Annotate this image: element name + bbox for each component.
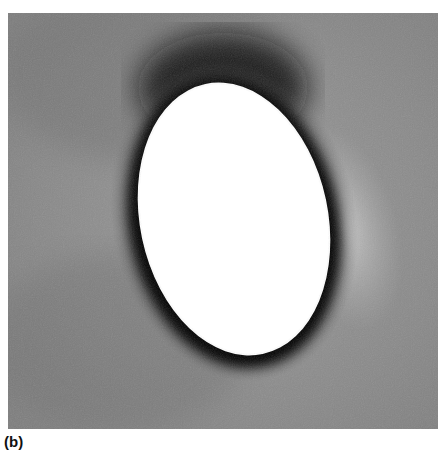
field-image [8, 13, 438, 429]
field-graphic [8, 13, 438, 429]
figure: (b) [0, 0, 441, 455]
panel-label: (b) [4, 433, 23, 450]
